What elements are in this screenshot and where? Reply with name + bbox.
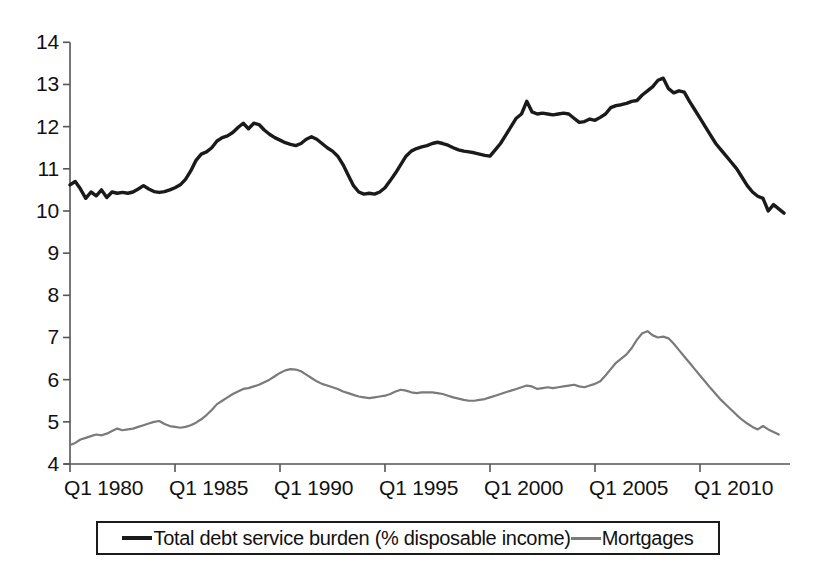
chart-series	[70, 78, 784, 445]
y-axis-tick-label: 9	[25, 242, 59, 263]
x-axis-tick-label: Q1 1980	[64, 477, 143, 498]
legend-entry-total: Total debt service burden (% disposable …	[122, 528, 570, 548]
x-axis-tick-label: Q1 2005	[589, 477, 668, 498]
legend-entry-mortgages: Mortgages	[571, 528, 694, 548]
series-line-total-debt-service-burden	[70, 78, 784, 213]
y-axis-tick-label: 5	[25, 411, 59, 432]
chart-container: 1413121110987654 Q1 1980Q1 1985Q1 1990Q1…	[0, 0, 820, 587]
x-axis-tick-label: Q1 1995	[379, 477, 458, 498]
legend-label-total: Total debt service burden (% disposable …	[153, 528, 570, 548]
legend-line-swatch-mortgages-icon	[571, 537, 601, 540]
y-axis-tick-label: 6	[25, 369, 59, 390]
chart-axes	[63, 42, 790, 472]
y-axis-tick-label: 4	[25, 453, 59, 474]
y-axis-tick-label: 12	[25, 116, 59, 137]
y-axis-tick-label: 11	[25, 158, 59, 179]
x-axis-tick-label: Q1 1985	[169, 477, 248, 498]
chart-legend: Total debt service burden (% disposable …	[96, 521, 720, 555]
y-axis-tick-label: 8	[25, 284, 59, 305]
y-axis-tick-label: 13	[25, 73, 59, 94]
y-axis-tick-label: 14	[25, 31, 59, 52]
x-axis-tick-label: Q1 2010	[694, 477, 773, 498]
legend-label-mortgages: Mortgages	[602, 528, 694, 548]
x-axis-tick-label: Q1 2000	[484, 477, 563, 498]
x-axis-tick-label: Q1 1990	[274, 477, 353, 498]
legend-line-swatch-total-icon	[122, 536, 152, 540]
series-line-mortgages	[70, 331, 779, 445]
y-axis-tick-label: 10	[25, 200, 59, 221]
y-axis-tick-label: 7	[25, 326, 59, 347]
